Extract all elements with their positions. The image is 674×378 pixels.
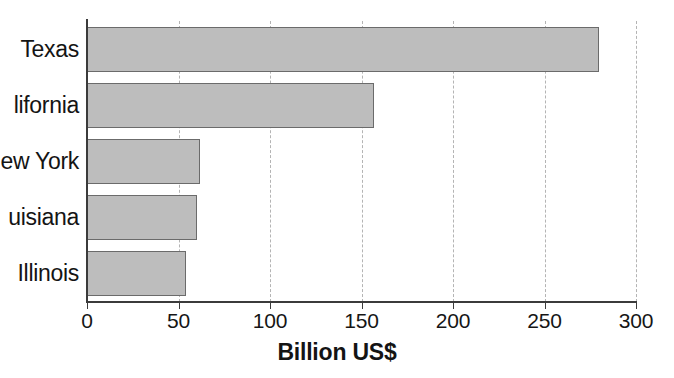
bar-texas[interactable] (87, 27, 599, 72)
category-label-texas: Texas (0, 34, 79, 64)
category-label-new-york: ew York (0, 146, 79, 176)
bar-chart: 050100150200250300 Texasliforniaew Yorku… (0, 0, 674, 378)
bar-california[interactable] (87, 83, 374, 128)
category-label-illinois: Illinois (0, 258, 79, 288)
x-tick-label-50: 50 (167, 309, 190, 333)
bar-illinois[interactable] (87, 251, 186, 296)
x-tick-label-100: 100 (253, 309, 287, 333)
gridline-300 (636, 21, 637, 302)
x-axis-title: Billion US$ (0, 339, 674, 366)
category-label-california: lifornia (0, 90, 79, 120)
category-label-louisiana: uisiana (0, 202, 79, 232)
x-tick-label-0: 0 (81, 309, 92, 333)
bar-new-york[interactable] (87, 139, 200, 184)
x-tick-label-300: 300 (619, 309, 653, 333)
x-tick-label-200: 200 (436, 309, 470, 333)
y-axis-line (86, 19, 88, 303)
x-tick-label-150: 150 (344, 309, 378, 333)
x-tick-label-250: 250 (527, 309, 561, 333)
bar-louisiana[interactable] (87, 195, 197, 240)
